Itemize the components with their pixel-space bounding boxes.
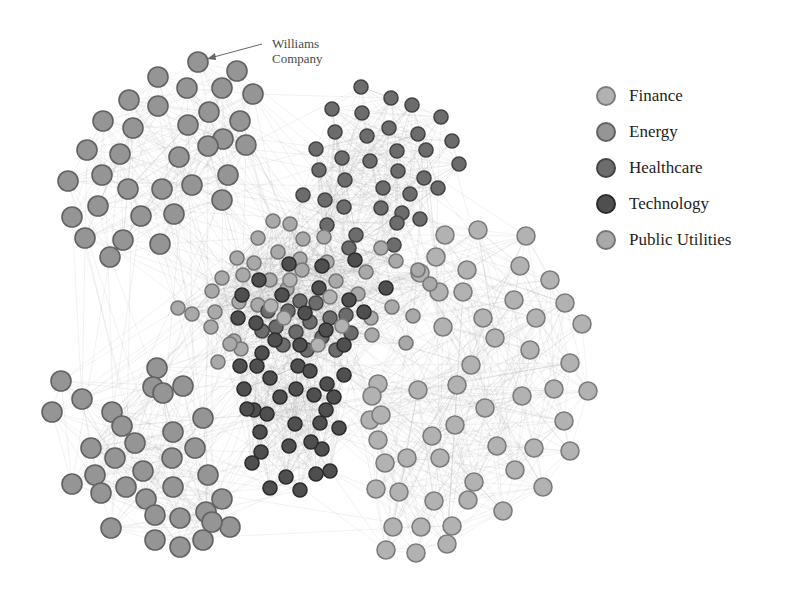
network-node: [376, 454, 394, 472]
network-node: [390, 216, 404, 230]
network-node: [332, 421, 346, 435]
network-node: [317, 230, 331, 244]
network-node: [342, 293, 356, 307]
network-node: [458, 261, 476, 279]
annotation-line-1: Williams: [272, 36, 323, 51]
network-node: [312, 163, 326, 177]
network-node: [459, 491, 477, 509]
network-node: [100, 247, 120, 267]
healthcare-dot-icon: [596, 158, 616, 178]
network-node: [462, 356, 480, 374]
network-node: [283, 273, 297, 287]
network-node: [273, 390, 287, 404]
network-node: [85, 465, 105, 485]
network-node: [249, 316, 263, 330]
network-node: [521, 341, 539, 359]
network-node: [323, 464, 337, 478]
network-node: [385, 300, 399, 314]
network-node: [349, 228, 363, 242]
technology-dot-icon: [596, 194, 616, 214]
network-node: [413, 212, 427, 226]
network-node: [360, 129, 374, 143]
network-node: [92, 165, 112, 185]
network-node: [42, 402, 62, 422]
network-node: [243, 84, 263, 104]
network-node: [431, 181, 445, 195]
network-node: [505, 291, 523, 309]
network-node: [325, 102, 339, 116]
network-node: [419, 143, 433, 157]
network-node: [363, 387, 381, 405]
energy-dot-icon: [596, 122, 616, 142]
network-node: [275, 288, 289, 302]
network-node: [372, 406, 390, 424]
legend-label: Energy: [629, 122, 678, 142]
network-node: [445, 134, 459, 148]
network-node: [296, 232, 310, 246]
network-node: [309, 296, 323, 310]
network-node: [374, 241, 388, 255]
network-node: [171, 301, 185, 315]
network-node: [260, 407, 274, 421]
network-node: [398, 449, 416, 467]
network-node: [110, 144, 130, 164]
network-node: [51, 371, 71, 391]
network-node: [271, 245, 285, 259]
network-node: [93, 111, 113, 131]
network-node: [145, 530, 165, 550]
network-node: [423, 427, 441, 445]
legend-label: Technology: [629, 194, 709, 214]
network-node: [150, 234, 170, 254]
network-node: [384, 91, 398, 105]
network-node: [561, 442, 579, 460]
network-node: [293, 338, 307, 352]
network-node: [251, 231, 265, 245]
network-node: [133, 461, 153, 481]
network-node: [319, 323, 333, 337]
network-node: [220, 517, 240, 537]
network-node: [72, 389, 92, 409]
network-node: [153, 383, 173, 403]
network-node: [555, 412, 573, 430]
network-node: [266, 214, 280, 228]
network-node: [227, 61, 247, 81]
network-node: [247, 256, 261, 270]
network-node: [188, 52, 208, 72]
network-node: [376, 181, 390, 195]
network-node: [263, 481, 277, 495]
network-node: [105, 448, 125, 468]
network-node: [279, 470, 293, 484]
network-node: [113, 230, 133, 250]
network-node: [488, 437, 506, 455]
network-node: [309, 467, 323, 481]
williams-company-annotation: Williams Company: [272, 36, 323, 66]
network-node: [313, 416, 327, 430]
network-node: [263, 371, 277, 385]
network-node: [318, 193, 332, 207]
network-node: [517, 227, 535, 245]
network-node: [231, 311, 245, 325]
network-node: [178, 115, 198, 135]
network-node: [131, 206, 151, 226]
annotation-arrow: [207, 44, 262, 60]
network-node: [357, 305, 371, 319]
network-node: [215, 271, 229, 285]
network-node: [556, 294, 574, 312]
network-node: [390, 483, 408, 501]
network-node: [88, 196, 108, 216]
network-node: [382, 121, 396, 135]
network-node: [311, 338, 325, 352]
network-node: [545, 380, 563, 398]
network-node: [230, 251, 244, 265]
network-node: [541, 271, 559, 289]
network-node: [118, 179, 138, 199]
legend-label: Public Utilities: [629, 230, 731, 250]
network-node: [119, 90, 139, 110]
network-node: [390, 144, 404, 158]
network-node: [303, 364, 317, 378]
network-node: [367, 480, 385, 498]
network-node: [202, 512, 222, 532]
network-node: [431, 449, 449, 467]
network-node: [513, 387, 531, 405]
network-node: [212, 489, 232, 509]
